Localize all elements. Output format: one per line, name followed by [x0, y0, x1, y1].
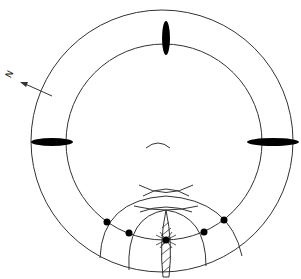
north-arrow-head: [20, 82, 28, 87]
dot: [104, 219, 111, 226]
left-marker: [31, 138, 73, 146]
top-marker: [162, 21, 170, 55]
dot: [201, 229, 208, 236]
dot: [163, 237, 170, 244]
right-marker: [247, 138, 299, 146]
dot: [221, 217, 228, 224]
ring-diagram: [0, 0, 301, 279]
dot: [126, 230, 133, 237]
north-arrow-shaft: [23, 83, 52, 96]
ring-dots: [104, 217, 228, 244]
center-arc: [146, 143, 170, 148]
large-dome-arc: [100, 196, 242, 258]
